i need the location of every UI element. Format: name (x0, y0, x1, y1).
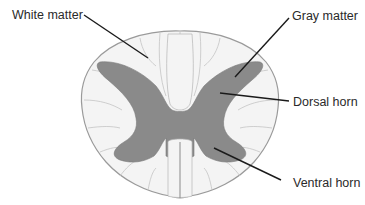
white-matter-label: White matter (12, 8, 83, 22)
gray-matter-label: Gray matter (292, 9, 358, 23)
diagram-canvas: White matter Gray matter Dorsal horn Ven… (0, 0, 365, 205)
dorsal-column (167, 34, 194, 110)
ventral-horn-label: Ventral horn (293, 176, 360, 190)
dorsal-horn-label: Dorsal horn (293, 95, 358, 109)
